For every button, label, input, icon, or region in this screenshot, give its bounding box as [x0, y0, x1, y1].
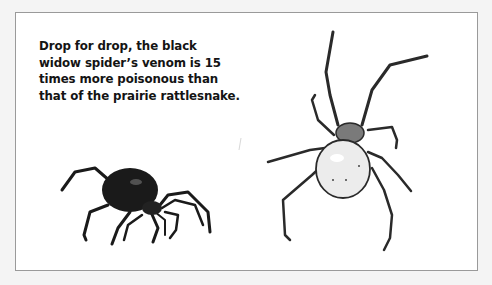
black-spider-illustration: [62, 168, 210, 244]
spider-illustrations: [0, 0, 492, 285]
stray-mark: [239, 138, 241, 150]
pale-spider-illustration: [268, 32, 427, 250]
